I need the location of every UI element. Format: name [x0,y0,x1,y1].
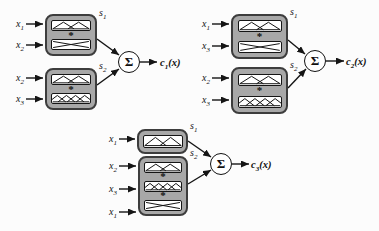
membership-functions-icon [144,136,182,147]
block-label-s1: s1 [190,120,197,132]
output-label-c2: c2(x) [346,55,366,68]
membership-strip [51,39,91,50]
input-label-x3: x3 [194,40,210,52]
membership-functions-icon [239,42,281,52]
product-operator: * [257,88,263,93]
membership-strip [143,135,183,148]
rule-block-s2: * * [138,156,188,216]
fuzzy-basis-function-figure: x1 x2 x2 x3 * s1 * s2 Σ c1(x) x1 x3 x2 x… [0,0,379,231]
sum-node: Σ [118,51,140,73]
rule-block-s1: * [45,14,97,56]
input-label-x3: x3 [194,94,210,106]
input-label-x3: x3 [101,183,117,195]
membership-strip [238,96,282,108]
input-label-x1: x1 [194,18,210,30]
product-operator: * [68,33,74,38]
rule-block-s2: * [45,68,97,110]
membership-functions-icon [239,97,281,107]
input-label-x2: x2 [8,72,24,84]
sigma-icon: Σ [311,53,320,69]
block-label-s2: s2 [190,147,197,159]
output-label-c3: c3(x) [251,158,271,171]
product-operator: * [160,174,166,179]
rule-block-s1: * [231,14,288,59]
product-operator: * [257,34,263,39]
block-label-s1: s1 [290,6,297,18]
input-label-x1: x1 [101,133,117,145]
membership-strip [144,200,182,211]
sigma-icon: Σ [125,54,134,70]
membership-strip [238,41,282,53]
block-label-s1: s1 [99,7,106,19]
input-label-x1: x1 [8,18,24,30]
input-label-x3: x3 [8,93,24,105]
membership-strip [51,93,91,104]
product-operator: * [160,193,166,198]
output-label-c1: c1(x) [160,56,180,69]
input-label-x2: x2 [101,160,117,172]
sum-node: Σ [304,50,326,72]
membership-functions-icon [239,75,281,85]
input-label-x1: x1 [101,206,117,218]
product-operator: * [68,87,74,92]
block-label-s2: s2 [99,60,106,72]
input-label-x2: x2 [194,72,210,84]
membership-functions-icon [52,40,90,49]
sum-node: Σ [210,153,232,175]
input-label-x2: x2 [8,39,24,51]
membership-functions-icon [145,201,181,210]
rule-block-s2: * [231,67,288,114]
rule-block-s1 [137,129,188,154]
membership-functions-icon [52,94,90,103]
sigma-icon: Σ [217,156,226,172]
block-label-s2: s2 [290,59,297,71]
